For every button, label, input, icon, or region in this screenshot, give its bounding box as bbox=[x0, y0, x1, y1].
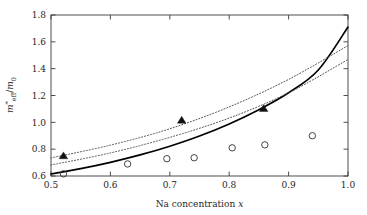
y-tick-label: 0.6 bbox=[32, 171, 47, 181]
y-tick-label: 1.2 bbox=[32, 91, 46, 101]
x-tick-label: 0.8 bbox=[222, 180, 237, 190]
x-tick-label: 0.9 bbox=[281, 180, 296, 190]
scatter-plot: 0.50.60.70.80.91.0 0.60.81.01.21.41.61.8… bbox=[0, 0, 367, 215]
y-tick-label: 0.8 bbox=[32, 144, 47, 154]
x-tick-label: 0.6 bbox=[103, 180, 118, 190]
x-tick-label: 1.0 bbox=[341, 180, 356, 190]
y-tick-label: 1.4 bbox=[32, 64, 47, 74]
figure-panel: 0.50.60.70.80.91.0 0.60.81.01.21.41.61.8… bbox=[0, 0, 367, 215]
x-tick-label: 0.7 bbox=[163, 180, 178, 190]
x-axis-title: Na concentrationx bbox=[156, 199, 244, 209]
y-tick-label: 1.8 bbox=[32, 10, 47, 20]
y-tick-label: 1.0 bbox=[32, 118, 47, 128]
y-tick-label: 1.6 bbox=[32, 37, 47, 47]
svg-text:Na concentrationx: Na concentrationx bbox=[156, 199, 244, 209]
x-tick-label: 0.5 bbox=[44, 180, 59, 190]
